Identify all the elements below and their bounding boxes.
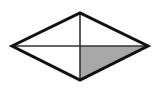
rhombus-diagram <box>0 0 163 89</box>
